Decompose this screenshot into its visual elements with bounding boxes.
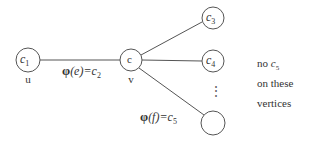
edge-e-label: φ(e)=c2	[62, 64, 101, 83]
vertex-name-u: u	[18, 73, 38, 85]
vertex-name-v: v	[121, 73, 141, 85]
vertical-ellipsis: ⋮	[209, 84, 223, 100]
node-c3-label: c3	[206, 10, 215, 29]
node-empty	[201, 111, 225, 135]
annotation-line2: on these	[257, 76, 293, 90]
annotation-line1: no c5	[257, 56, 279, 75]
edge-v-c4	[142, 60, 202, 61]
node-v-label: c	[127, 52, 132, 66]
node-u-label: c1	[20, 52, 29, 71]
edge-f-label: φ(f)=c5	[140, 110, 177, 129]
node-c4-label: c4	[206, 53, 215, 72]
edge-v-c3	[141, 22, 202, 55]
edge-f	[139, 68, 204, 115]
annotation-line3: vertices	[257, 96, 291, 110]
